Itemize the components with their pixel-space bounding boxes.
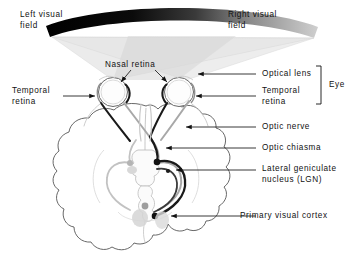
- left-lgn-marker: [127, 160, 133, 166]
- label-optic-chiasma: Optic chiasma: [262, 143, 321, 154]
- label-primary-visual-cortex: Primary visual cortex: [240, 211, 328, 222]
- visual-pathway-diagram: Left visual field Right visual field Nas…: [0, 0, 363, 255]
- label-temporal-retina-right: Temporal retina: [262, 86, 300, 107]
- eye-bracket: [316, 66, 321, 104]
- label-nasal-retina: Nasal retina: [105, 60, 155, 71]
- right-lgn-marker: [154, 159, 161, 166]
- label-optic-nerve: Optic nerve: [262, 122, 310, 133]
- right-eye: [162, 76, 194, 106]
- label-eye-group: Eye: [329, 80, 345, 91]
- label-temporal-retina-left: Temporal retina: [12, 86, 50, 107]
- label-optical-lens: Optical lens: [262, 69, 311, 80]
- left-eye: [97, 76, 129, 106]
- label-right-visual-field: Right visual field: [228, 10, 277, 31]
- visual-field-band: [46, 8, 318, 38]
- label-lateral-geniculate-nucleus: Lateral geniculate nucleus (LGN): [262, 164, 337, 185]
- label-left-visual-field: Left visual field: [20, 10, 63, 31]
